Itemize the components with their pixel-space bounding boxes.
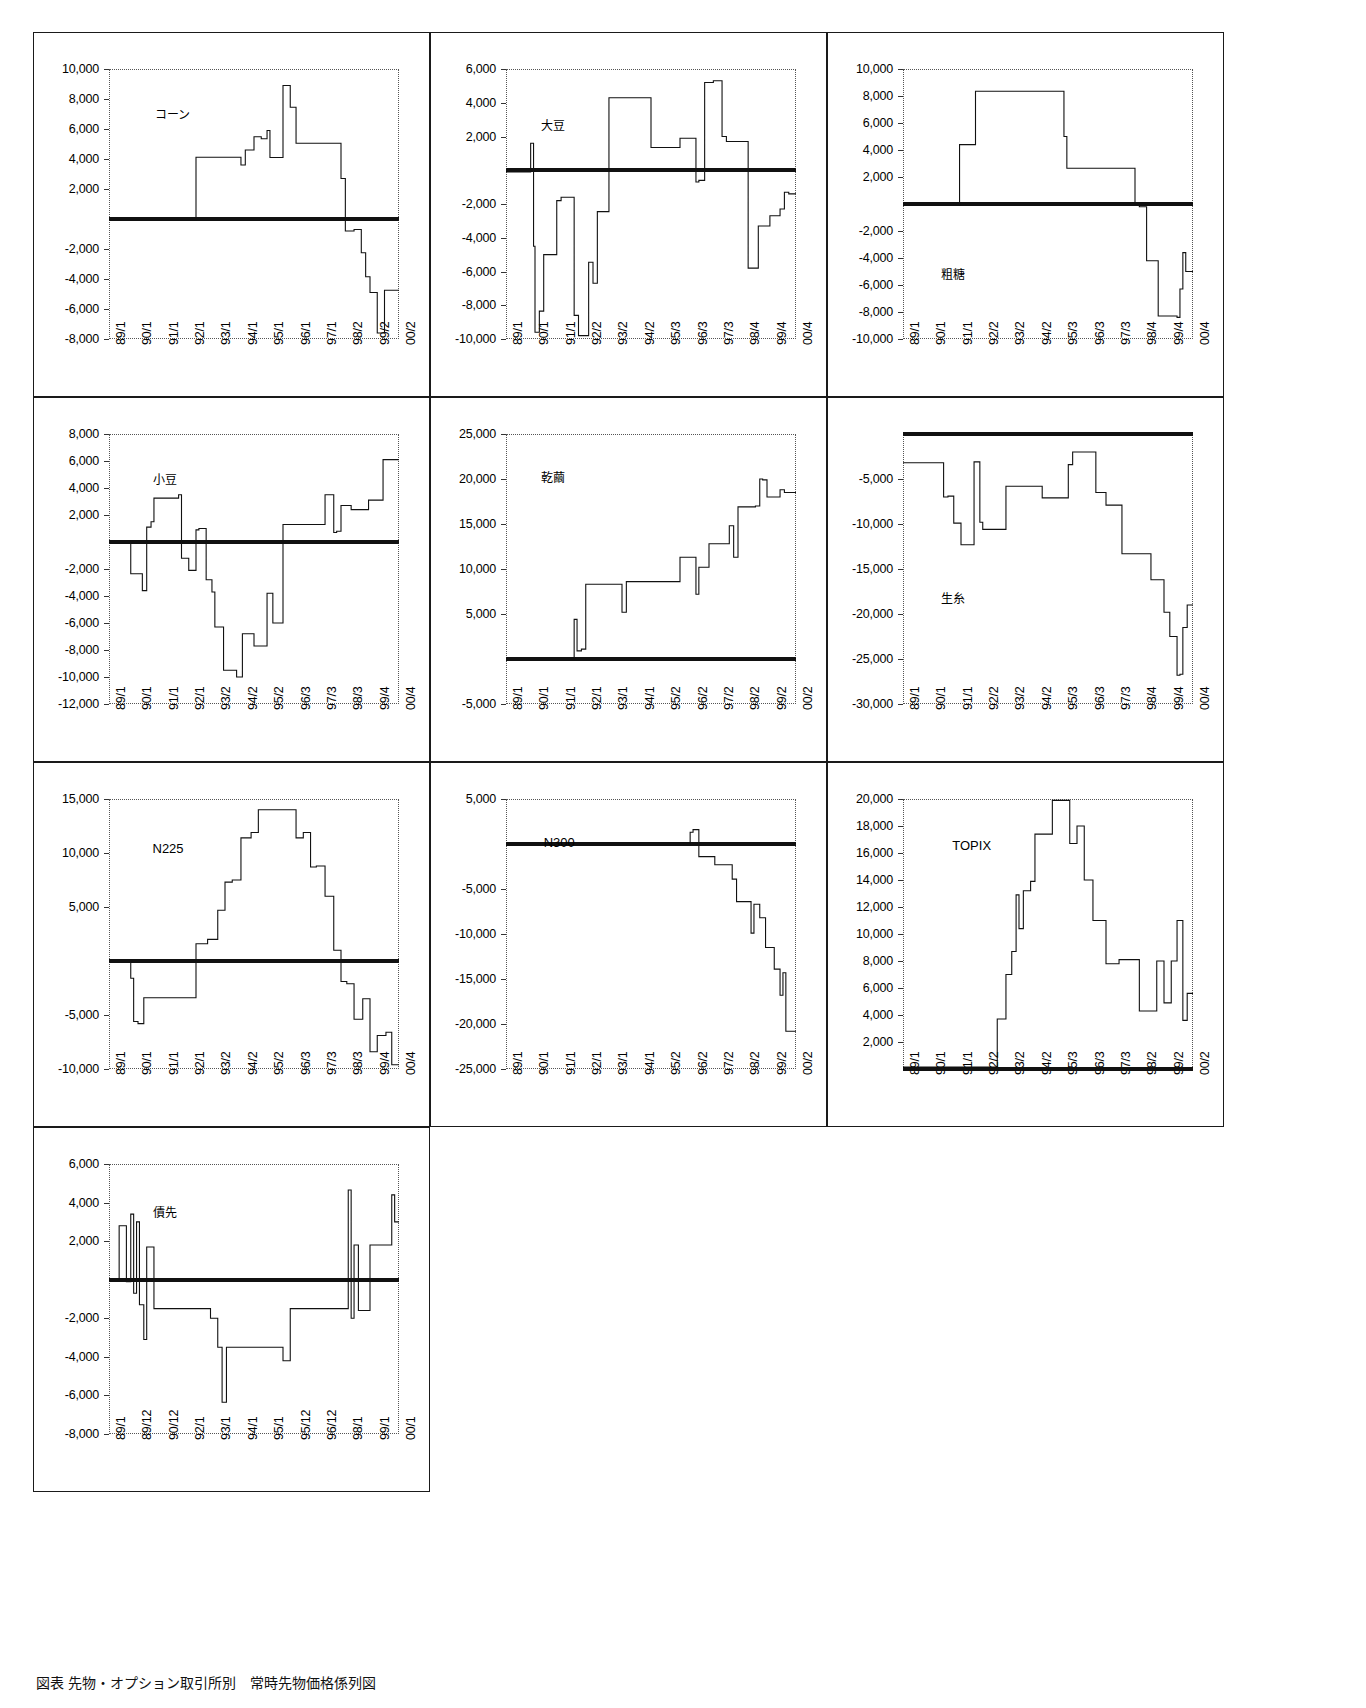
chart-cell-raw-sugar: 10,0008,0006,0004,0002,000-2,000-4,000-6… (827, 32, 1224, 397)
series-title-raw-sugar: 粗糖 (941, 265, 965, 282)
series-title-topix: TOPIX (952, 838, 991, 853)
series-line-topix (903, 800, 1193, 1067)
series-title-n225: N225 (153, 841, 184, 856)
charts-row: 6,0004,0002,000-2,000-4,000-6,000-8,0008… (33, 1127, 1224, 1492)
series-plot-topix (828, 763, 1225, 1128)
chart-cell-bond-futures: 6,0004,0002,000-2,000-4,000-6,000-8,0008… (33, 1127, 430, 1492)
chart-panel-n225: 15,00010,0005,000-5,000-10,00089/190/191… (34, 763, 429, 1126)
chart-panel-azuki: 8,0006,0004,0002,000-2,000-4,000-6,000-8… (34, 398, 429, 761)
series-title-n300: N300 (544, 835, 575, 850)
chart-cell-azuki: 8,0006,0004,0002,000-2,000-4,000-6,000-8… (33, 397, 430, 762)
series-plot-bond-futures (34, 1128, 431, 1493)
chart-cell-n300: 5,000-5,000-10,000-15,000-20,000-25,0008… (430, 762, 827, 1127)
series-plot-raw-sugar (828, 33, 1225, 398)
chart-cell-raw-silk: -5,000-10,000-15,000-20,000-25,000-30,00… (827, 397, 1224, 762)
series-line-bond-futures (109, 1190, 399, 1402)
empty-cell (827, 1127, 1224, 1492)
series-line-raw-silk (903, 452, 1193, 675)
chart-panel-soybean: 6,0004,0002,000-2,000-4,000-6,000-8,000-… (431, 33, 826, 396)
series-title-soybean: 大豆 (541, 116, 565, 133)
series-title-dried-cocoon: 乾繭 (541, 468, 565, 485)
series-plot-n225 (34, 763, 431, 1128)
charts-grid: 10,0008,0006,0004,0002,000-2,000-4,000-6… (33, 32, 1224, 1492)
chart-cell-topix: 20,00018,00016,00014,00012,00010,0008,00… (827, 762, 1224, 1127)
series-plot-corn (34, 33, 431, 398)
series-line-corn (109, 86, 399, 334)
figure-page: 10,0008,0006,0004,0002,000-2,000-4,000-6… (0, 0, 1366, 1708)
chart-cell-n225: 15,00010,0005,000-5,000-10,00089/190/191… (33, 762, 430, 1127)
series-title-bond-futures: 債先 (153, 1203, 177, 1220)
series-plot-raw-silk (828, 398, 1225, 763)
empty-cell (430, 1127, 827, 1492)
series-plot-dried-cocoon (431, 398, 828, 763)
chart-panel-n300: 5,000-5,000-10,000-15,000-20,000-25,0008… (431, 763, 826, 1126)
series-line-dried-cocoon (506, 479, 796, 659)
series-plot-soybean (431, 33, 828, 398)
chart-panel-raw-sugar: 10,0008,0006,0004,0002,000-2,000-4,000-6… (828, 33, 1223, 396)
series-line-n300 (506, 830, 796, 1032)
charts-row: 8,0006,0004,0002,000-2,000-4,000-6,000-8… (33, 397, 1224, 762)
series-line-azuki (109, 460, 399, 677)
series-title-azuki: 小豆 (153, 470, 177, 487)
chart-cell-soybean: 6,0004,0002,000-2,000-4,000-6,000-8,000-… (430, 32, 827, 397)
series-plot-n300 (431, 763, 828, 1128)
chart-panel-corn: 10,0008,0006,0004,0002,000-2,000-4,000-6… (34, 33, 429, 396)
chart-panel-raw-silk: -5,000-10,000-15,000-20,000-25,000-30,00… (828, 398, 1223, 761)
chart-panel-bond-futures: 6,0004,0002,000-2,000-4,000-6,000-8,0008… (34, 1128, 429, 1491)
charts-row: 10,0008,0006,0004,0002,000-2,000-4,000-6… (33, 32, 1224, 397)
chart-cell-corn: 10,0008,0006,0004,0002,000-2,000-4,000-6… (33, 32, 430, 397)
chart-cell-dried-cocoon: 25,00020,00015,00010,0005,000-5,00089/19… (430, 397, 827, 762)
chart-panel-topix: 20,00018,00016,00014,00012,00010,0008,00… (828, 763, 1223, 1126)
charts-row: 15,00010,0005,000-5,000-10,00089/190/191… (33, 762, 1224, 1127)
series-title-raw-silk: 生糸 (941, 589, 965, 606)
series-title-corn: コーン (155, 105, 190, 122)
chart-panel-dried-cocoon: 25,00020,00015,00010,0005,000-5,00089/19… (431, 398, 826, 761)
series-line-raw-sugar (903, 91, 1193, 317)
series-plot-azuki (34, 398, 431, 763)
figure-caption: 図表 先物・オプション取引所別 常時先物価格係列図 (36, 1672, 376, 1692)
